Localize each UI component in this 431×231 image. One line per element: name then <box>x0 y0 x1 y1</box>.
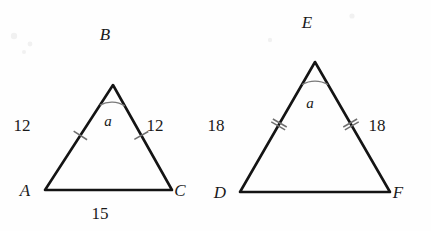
triangle-def-vertex-label-f: F <box>392 183 404 202</box>
triangle-abc-side-label-ab: 12 <box>14 116 31 135</box>
triangle-def-side-label-de: 18 <box>208 116 225 135</box>
triangle-def-side-label-ef: 18 <box>369 116 386 135</box>
triangle-abc-vertex-label-b: B <box>100 25 111 44</box>
triangle-def <box>240 62 390 192</box>
triangle-abc <box>45 85 172 190</box>
triangle-abc-tick-ab <box>74 131 87 140</box>
triangle-abc-side-label-ac: 15 <box>92 204 109 223</box>
triangle-def-vertex-label-e: E <box>301 13 313 32</box>
triangle-abc-angle-label: a <box>104 113 112 129</box>
triangle-def-angle-label: a <box>306 95 314 111</box>
triangle-def-angle-arc <box>302 81 328 84</box>
geometry-figure: ABC121215aDEF1818a <box>0 0 431 231</box>
diagram-canvas: ABC121215aDEF1818a <box>0 0 431 231</box>
triangle-abc-angle-arc <box>100 102 125 106</box>
triangle-abc-vertex-label-c: C <box>174 181 186 200</box>
triangle-abc-outline <box>45 85 172 190</box>
triangle-def-vertex-label-d: D <box>213 183 227 202</box>
triangle-abc-vertex-label-a: A <box>19 181 31 200</box>
triangle-abc-side-label-bc: 12 <box>147 116 164 135</box>
